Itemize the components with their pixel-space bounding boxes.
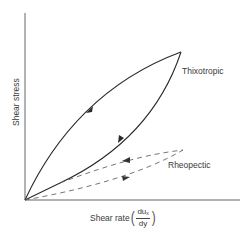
rheopectic-upper-curve xyxy=(60,150,183,183)
rheopectic-label: Rheopectic xyxy=(168,160,211,170)
hysteresis-diagram xyxy=(0,0,252,242)
left-paren: ( xyxy=(131,209,135,226)
derivative-fraction: dux dy xyxy=(136,207,149,228)
thixotropic-upper-curve xyxy=(25,52,181,200)
arrow-up-icon xyxy=(86,106,93,113)
thixotropic-lower-curve xyxy=(25,52,181,200)
numerator-subscript: x xyxy=(146,210,149,216)
fraction-numerator: dux xyxy=(136,207,149,219)
x-axis-label-text: Shear rate xyxy=(90,213,130,223)
fraction-denominator: dy xyxy=(139,219,147,228)
right-paren: ) xyxy=(152,209,156,226)
arrow-right-icon xyxy=(122,176,130,181)
thixotropic-label: Thixotropic xyxy=(182,66,224,76)
x-axis-label: Shear rate ( dux dy ) xyxy=(90,207,156,228)
numerator-text: du xyxy=(137,207,146,216)
y-axis-label: Shear stress xyxy=(11,78,21,126)
